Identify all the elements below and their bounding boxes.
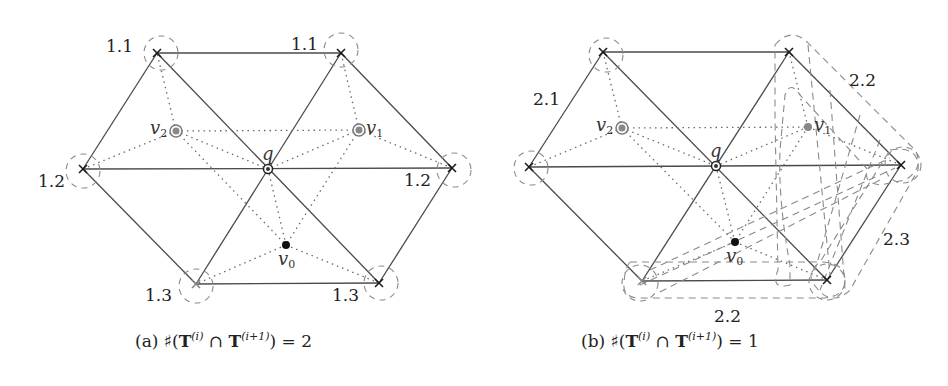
caption-b-sup1: (i) xyxy=(638,330,650,343)
region-label: 2.3 xyxy=(883,229,910,249)
region-label: 2.2 xyxy=(714,306,741,326)
vertex-label: 1.2 xyxy=(404,170,431,190)
caption-b-cap: ∩ xyxy=(650,331,675,351)
point-v0-label: v0 xyxy=(278,248,295,271)
caption-b-T2: T xyxy=(675,331,688,351)
vertex-label: 1.1 xyxy=(106,36,133,56)
point-v1-marker xyxy=(804,123,812,131)
caption-b-sup2: (i+1) xyxy=(688,330,716,343)
region-2-3 xyxy=(811,149,918,298)
vertex-label: 1.2 xyxy=(38,171,65,191)
vertex-label: 1.1 xyxy=(291,34,318,54)
region-vertical-band-1 xyxy=(808,45,830,275)
panel-b-dashed-regions xyxy=(622,35,921,301)
point-q-label: q xyxy=(262,143,274,164)
point-v2-marker xyxy=(616,122,628,134)
caption-b-T1: T xyxy=(625,331,638,351)
point-v2-label: v2 xyxy=(596,114,613,137)
caption-a-T1: T xyxy=(179,331,192,351)
caption-a-T2: T xyxy=(229,331,242,351)
panel-b-vertex-neighborhoods xyxy=(514,38,623,185)
caption-a: (a) ♯(T(i) ∩ T(i+1)) = 2 xyxy=(135,330,312,351)
point-v1-label: v1 xyxy=(814,114,831,137)
point-v0-label: v0 xyxy=(726,245,743,268)
region-label: 2.1 xyxy=(533,89,560,109)
panel-b: 2.1 2.2 2.3 2.2 q v2 v1 v0 xyxy=(514,35,921,326)
caption-a-sharp: ♯( xyxy=(164,331,179,351)
region-diagonal-band-1 xyxy=(660,180,880,292)
caption-b-tail: ) = 1 xyxy=(716,331,759,351)
region-vertical-band-2 xyxy=(830,90,845,290)
point-v2-label: v2 xyxy=(150,117,167,140)
region-diagonal-band-3 xyxy=(640,168,895,285)
point-q-marker xyxy=(264,165,273,174)
panel-b-labels: 2.1 2.2 2.3 2.2 q v2 v1 v0 xyxy=(533,70,910,326)
point-v1-label: v1 xyxy=(366,117,383,140)
caption-b-prefix: (b) xyxy=(581,331,605,351)
region-label: 2.2 xyxy=(849,70,876,90)
caption-a-sup1: (i) xyxy=(191,330,203,343)
caption-a-tail: ) = 2 xyxy=(269,331,312,351)
point-q-marker xyxy=(712,162,721,171)
figure-canvas: 1.1 1.1 1.2 1.2 1.3 1.3 q v2 v1 v0 xyxy=(0,0,948,386)
panel-a: 1.1 1.1 1.2 1.2 1.3 1.3 q v2 v1 v0 xyxy=(38,33,471,305)
point-v1-marker xyxy=(353,124,365,136)
caption-a-prefix: (a) xyxy=(135,331,158,351)
caption-a-sup2: (i+1) xyxy=(241,330,269,343)
point-q-label: q xyxy=(710,140,722,161)
point-v2-marker xyxy=(170,125,182,137)
caption-b-sharp: ♯( xyxy=(611,331,626,351)
vertex-label: 1.3 xyxy=(145,285,172,305)
region-diagonal-band-2 xyxy=(650,158,890,270)
vertex-label: 1.3 xyxy=(332,285,359,305)
caption-b: (b) ♯(T(i) ∩ T(i+1)) = 1 xyxy=(581,330,759,351)
caption-a-cap: ∩ xyxy=(203,331,228,351)
